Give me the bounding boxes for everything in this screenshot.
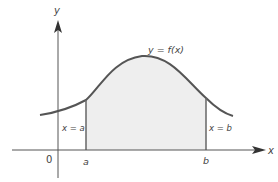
shaded-area	[86, 56, 206, 150]
area-under-curve-diagram: y x 0 y = f(x) a b x = a x = b	[0, 0, 278, 182]
tick-label-b: b	[203, 155, 209, 166]
origin-label: 0	[46, 154, 52, 165]
x-axis-label: x	[267, 145, 274, 156]
curve-label: y = f(x)	[147, 44, 184, 55]
tick-label-a: a	[83, 156, 89, 167]
bound-label-b: x = b	[208, 123, 232, 133]
y-axis-label: y	[53, 5, 61, 16]
bound-label-a: x = a	[61, 123, 85, 133]
